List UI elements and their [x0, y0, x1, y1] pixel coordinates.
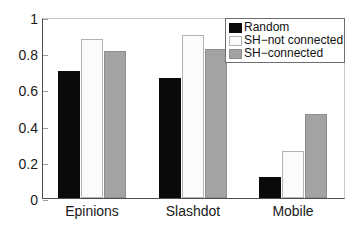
legend-swatch-sh-not-connected-icon: [229, 36, 242, 46]
y-tick-label-4: 0.8: [19, 47, 38, 63]
bar-slashdot-random: [159, 78, 181, 198]
y-tick-2: [43, 128, 48, 129]
y-tick-4: [43, 55, 48, 56]
y-tick-label-3: 0.6: [19, 83, 38, 99]
bar-mobile-random: [259, 177, 281, 198]
y-tick-0: [43, 200, 48, 201]
x-tick-label-mobile: Mobile: [272, 203, 313, 219]
bar-mobile-sh-not-connected: [282, 151, 304, 198]
bar-epinions-sh-connected: [104, 51, 126, 198]
legend-label-sh-connected: SH−connected: [244, 47, 323, 60]
bar-epinions-random: [58, 71, 80, 198]
y-tick-1: [43, 164, 48, 165]
y-tick-label-1: 0.2: [19, 156, 38, 172]
y-tick-label-2: 0.4: [19, 120, 38, 136]
bar-chart-figure: 0 0.2 0.4 0.6 0.8 1: [0, 0, 364, 234]
y-tick-label-5: 1: [30, 11, 38, 27]
bar-slashdot-sh-not-connected: [182, 35, 204, 198]
legend: Random SH−not connected SH−connected: [225, 18, 345, 63]
y-tick-5: [43, 19, 48, 20]
y-tick-label-0: 0: [30, 192, 38, 208]
bar-mobile-sh-connected: [305, 114, 327, 198]
legend-swatch-sh-connected-icon: [229, 49, 242, 59]
legend-swatch-random-icon: [229, 23, 242, 33]
x-tick-label-slashdot: Slashdot: [166, 203, 220, 219]
bar-epinions-sh-not-connected: [81, 39, 103, 198]
legend-item-sh-connected: SH−connected: [229, 47, 341, 60]
x-tick-label-epinions: Epinions: [65, 203, 119, 219]
bar-slashdot-sh-connected: [205, 49, 227, 198]
y-tick-3: [43, 91, 48, 92]
